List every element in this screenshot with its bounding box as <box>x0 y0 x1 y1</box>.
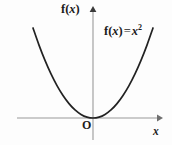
equation-exponent: 2 <box>138 23 142 32</box>
x-axis-label: x <box>153 126 159 138</box>
origin-label: O <box>82 119 91 131</box>
y-axis-label: f(x) <box>61 3 80 16</box>
curve-equation-label: f(x)=x2 <box>104 25 142 38</box>
x-axis-arrowhead <box>157 114 163 121</box>
y-axis-arrowhead <box>90 6 97 12</box>
y-axis-label-paren-close: ) <box>76 2 80 16</box>
equation-equals-sign: = <box>123 24 132 38</box>
function-graph-figure: f(x) f(x)=x2 O x <box>0 0 172 145</box>
